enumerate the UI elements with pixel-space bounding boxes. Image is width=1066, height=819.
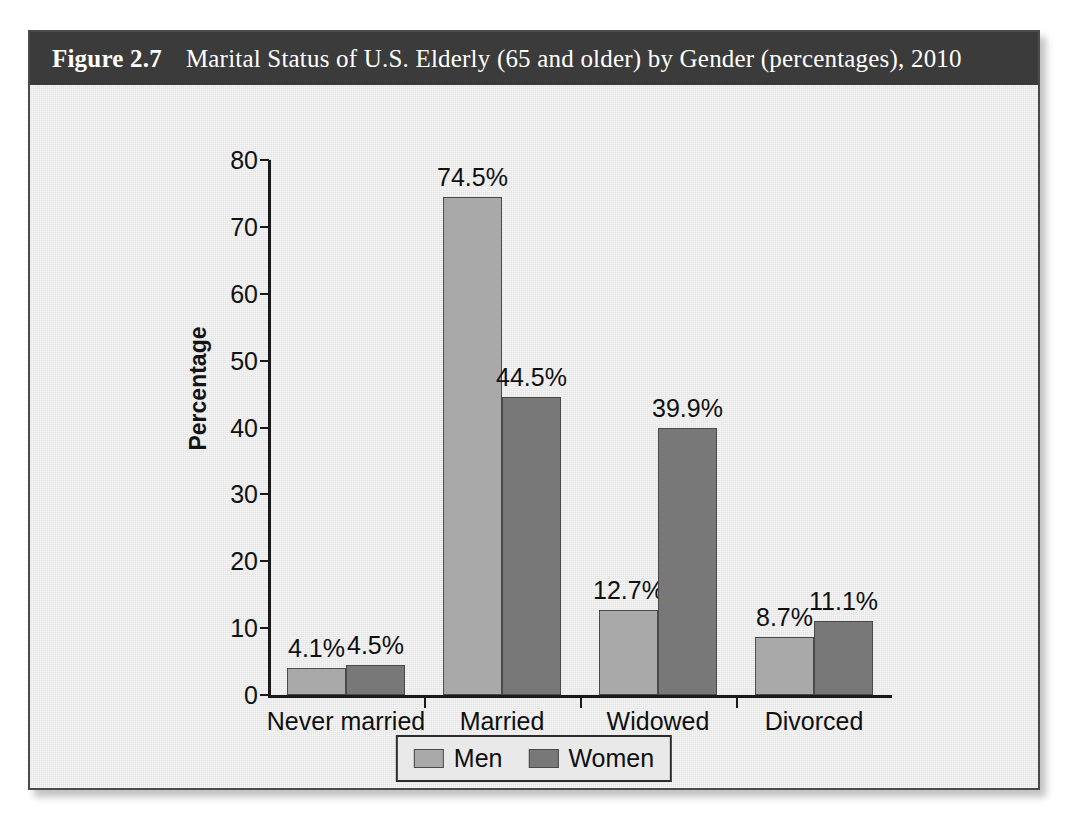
bar-chart: 010203040506070804.1%4.5%Never married74… xyxy=(30,85,1038,788)
y-axis-tick-label: 70 xyxy=(210,212,258,241)
bar-value-label: 8.7% xyxy=(756,603,813,632)
legend-swatch-women-icon xyxy=(528,749,558,768)
legend-label: Women xyxy=(568,744,654,773)
x-axis-category-label: Divorced xyxy=(765,707,864,736)
x-axis-group-divider xyxy=(580,698,582,708)
x-axis-group-divider xyxy=(424,698,426,708)
y-axis-tick-label: 50 xyxy=(210,346,258,375)
y-axis-tick-mark xyxy=(260,627,269,629)
y-axis-tick-mark xyxy=(260,226,269,228)
bar-men-never-married xyxy=(287,668,346,695)
legend-label: Men xyxy=(454,744,503,773)
y-axis-tick-label: 60 xyxy=(210,279,258,308)
bar-men-widowed xyxy=(599,610,658,695)
y-axis-tick-mark xyxy=(260,427,269,429)
bar-value-label: 12.7% xyxy=(593,576,664,605)
figure-title-bar: Figure 2.7 Marital Status of U.S. Elderl… xyxy=(30,32,1038,85)
y-axis-tick-label: 80 xyxy=(210,146,258,175)
figure-title-text: Marital Status of U.S. Elderly (65 and o… xyxy=(186,45,962,73)
bar-women-widowed xyxy=(658,428,717,695)
bar-value-label: 4.5% xyxy=(347,631,404,660)
y-axis-tick-mark xyxy=(260,694,269,696)
x-axis-category-label: Married xyxy=(460,707,545,736)
legend-swatch-men-icon xyxy=(414,749,444,768)
figure-number: Figure 2.7 xyxy=(52,45,162,73)
bar-women-divorced xyxy=(814,621,873,695)
y-axis-tick-mark xyxy=(260,360,269,362)
y-axis-tick-label: 10 xyxy=(210,614,258,643)
bar-women-married xyxy=(502,397,561,695)
figure-container: Figure 2.7 Marital Status of U.S. Elderl… xyxy=(28,30,1040,790)
x-axis-group-divider xyxy=(736,698,738,708)
y-axis-tick-label: 30 xyxy=(210,480,258,509)
y-axis-line xyxy=(268,160,271,697)
chart-panel: Percentage 010203040506070804.1%4.5%Neve… xyxy=(30,85,1038,788)
y-axis-tick-mark xyxy=(260,159,269,161)
x-axis-category-label: Never married xyxy=(267,707,425,736)
y-axis-tick-mark xyxy=(260,493,269,495)
bar-men-divorced xyxy=(755,637,814,695)
bar-value-label: 44.5% xyxy=(496,363,567,392)
legend-item-women[interactable]: Women xyxy=(528,744,654,773)
legend-item-men[interactable]: Men xyxy=(414,744,503,773)
y-axis-tick-label: 40 xyxy=(210,413,258,442)
bar-men-married xyxy=(443,197,502,695)
chart-legend: MenWomen xyxy=(396,735,672,782)
y-axis-tick-mark xyxy=(260,560,269,562)
bar-value-label: 39.9% xyxy=(652,394,723,423)
bar-value-label: 11.1% xyxy=(809,587,878,616)
x-axis-category-label: Widowed xyxy=(607,707,710,736)
y-axis-tick-label: 0 xyxy=(210,681,258,710)
bar-women-never-married xyxy=(346,665,405,695)
bar-value-label: 4.1% xyxy=(288,634,345,663)
y-axis-tick-label: 20 xyxy=(210,547,258,576)
bar-value-label: 74.5% xyxy=(437,163,508,192)
y-axis-tick-mark xyxy=(260,293,269,295)
